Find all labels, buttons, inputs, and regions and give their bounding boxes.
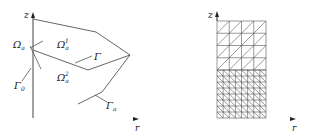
mesh-r-axis-arrow-icon — [290, 117, 296, 121]
boundary-gamma-a — [78, 55, 130, 104]
omega-a-leader-2 — [30, 46, 41, 69]
outer-boundary-top — [33, 19, 130, 55]
r-axis-arrow-icon — [133, 117, 139, 121]
gamma-leader — [75, 56, 92, 63]
gamma-0-leader — [22, 68, 31, 81]
region-omega-a-1-label: Ωa1 — [56, 37, 69, 51]
z-axis-label: z — [23, 10, 29, 20]
mesh-z-axis-label: z — [207, 10, 213, 20]
boundary-gamma-a-label: Γa — [105, 100, 117, 112]
r-axis-label: r — [135, 123, 140, 133]
mesh-r-axis-label: r — [292, 123, 297, 133]
region-omega-a-2-label: Ωa2 — [56, 70, 69, 84]
mesh-z-axis-arrow-icon — [215, 11, 219, 17]
boundary-gamma-label: Γ — [93, 51, 102, 62]
omega-a-leader-1 — [30, 41, 43, 48]
triangular-mesh — [217, 21, 266, 118]
left-domain-figure: z r Ωa1 Ωa2 Ωa Γ Γa — [12, 10, 140, 133]
boundary-gamma-0-label: Γ0 — [13, 80, 25, 92]
diagram-canvas: z r Ωa1 Ωa2 Ωa Γ Γa — [0, 0, 311, 136]
z-axis-arrow-icon — [31, 12, 35, 18]
right-mesh-figure: z r — [207, 10, 297, 133]
region-omega-a-label: Ωa — [12, 39, 25, 51]
